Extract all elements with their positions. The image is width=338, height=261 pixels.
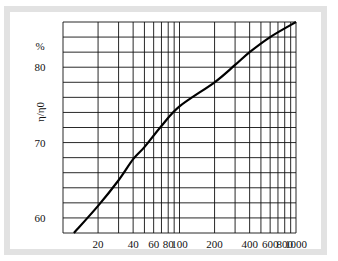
y-tick-label: 80 bbox=[35, 61, 47, 73]
x-tick-label: 1000 bbox=[285, 238, 308, 250]
x-tick-label: 40 bbox=[128, 238, 140, 250]
x-tick-label: 60 bbox=[148, 238, 160, 250]
x-axis-ticks: 204060801002004006008001000 bbox=[93, 238, 308, 250]
x-tick-label: 200 bbox=[206, 238, 223, 250]
chart-plot: 204060801002004006008001000 607080 % η/η… bbox=[0, 0, 338, 261]
x-tick-label: 20 bbox=[93, 238, 105, 250]
grid-lines bbox=[63, 22, 296, 233]
x-tick-label: 400 bbox=[241, 238, 258, 250]
y-axis-label: η/η0 bbox=[34, 101, 46, 122]
x-tick-label: 100 bbox=[171, 238, 188, 250]
y-axis-ticks: 607080 bbox=[35, 61, 47, 224]
y-tick-label: 60 bbox=[35, 212, 47, 224]
y-unit-label: % bbox=[35, 40, 44, 52]
y-tick-label: 70 bbox=[35, 137, 47, 149]
